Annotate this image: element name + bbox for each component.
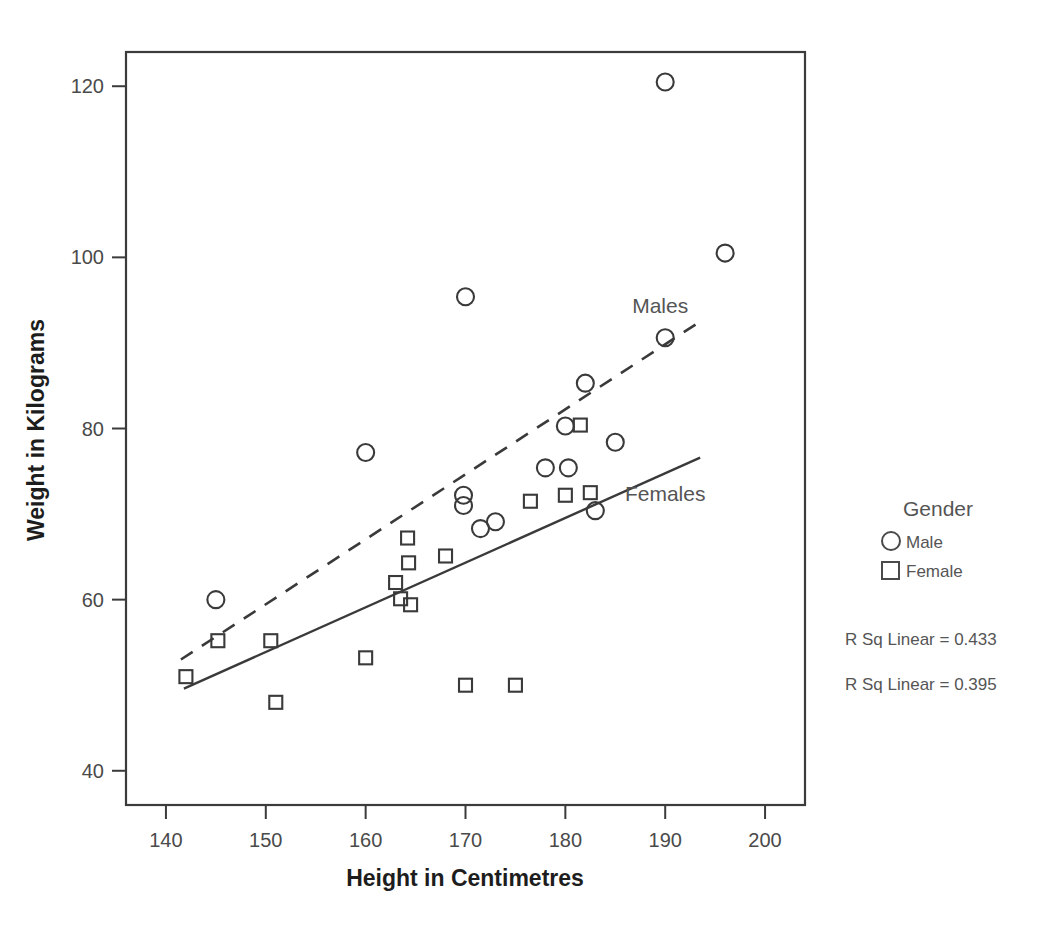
data-series-female (179, 419, 596, 709)
x-tick-label: 160 (349, 829, 382, 851)
data-point-female (269, 696, 282, 709)
y-tick-label: 40 (82, 760, 104, 782)
y-axis-ticks: 406080100120 (71, 75, 126, 782)
x-tick-label: 140 (149, 829, 182, 851)
data-point-male (455, 487, 472, 504)
regression-fit-lines (181, 322, 700, 689)
data-point-male (560, 459, 577, 476)
x-tick-label: 180 (549, 829, 582, 851)
fit-line-male (181, 322, 700, 660)
data-point-male (577, 375, 594, 392)
data-point-female (559, 489, 572, 502)
legend-female-square-icon (882, 562, 899, 579)
annotation-males: Males (632, 294, 688, 317)
data-point-male (357, 444, 374, 461)
fit-line-female (184, 458, 700, 689)
legend-label-male: Male (906, 533, 943, 552)
data-point-female (401, 532, 414, 545)
data-point-female (264, 634, 277, 647)
y-tick-label: 80 (82, 418, 104, 440)
x-tick-label: 190 (649, 829, 682, 851)
data-point-male (657, 73, 674, 90)
data-point-female (359, 651, 372, 664)
data-series-male (207, 73, 733, 608)
data-point-male (455, 497, 472, 514)
data-point-male (557, 417, 574, 434)
data-point-male (537, 459, 554, 476)
x-axis-title: Height in Centimetres (346, 865, 584, 891)
data-point-male (457, 288, 474, 305)
legend-male-circle-icon (882, 532, 900, 550)
data-point-female (439, 549, 452, 562)
data-point-female (402, 556, 415, 569)
x-axis-ticks: 140150160170180190200 (149, 805, 781, 851)
r-squared-male: R Sq Linear = 0.433 (845, 630, 997, 649)
data-point-female (574, 419, 587, 432)
y-tick-label: 100 (71, 246, 104, 268)
x-tick-label: 150 (249, 829, 282, 851)
legend: Gender Male Female (882, 497, 973, 581)
data-point-male (207, 591, 224, 608)
legend-title: Gender (903, 497, 973, 520)
x-tick-label: 200 (748, 829, 781, 851)
annotation-females: Females (625, 482, 706, 505)
r-squared-female: R Sq Linear = 0.395 (845, 675, 997, 694)
data-point-female (211, 634, 224, 647)
chart-canvas: 140150160170180190200 406080100120 Males… (0, 0, 1057, 925)
x-tick-label: 170 (449, 829, 482, 851)
data-point-female (584, 486, 597, 499)
scatter-plot-figure: 140150160170180190200 406080100120 Males… (0, 0, 1057, 925)
data-point-female (509, 679, 522, 692)
data-point-female (389, 576, 402, 589)
data-point-female (524, 495, 537, 508)
y-tick-label: 120 (71, 75, 104, 97)
r-squared-annotations: R Sq Linear = 0.433 R Sq Linear = 0.395 (845, 630, 997, 694)
legend-label-female: Female (906, 562, 963, 581)
y-axis-title: Weight in Kilograms (23, 319, 49, 541)
data-point-female (179, 670, 192, 683)
data-point-male (607, 434, 624, 451)
data-point-male (487, 513, 504, 530)
data-point-male (717, 245, 734, 262)
data-point-female (459, 679, 472, 692)
y-tick-label: 60 (82, 589, 104, 611)
